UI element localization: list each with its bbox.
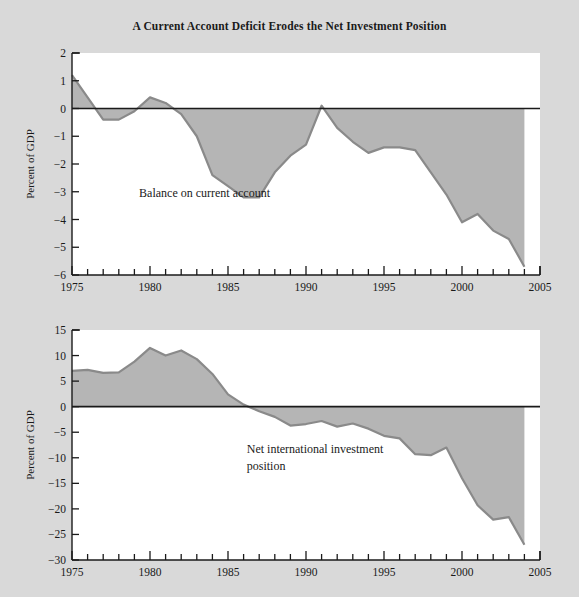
x-tick-label: 1980 bbox=[139, 566, 162, 578]
y-tick-label: −5 bbox=[54, 426, 66, 438]
y-tick-label: −30 bbox=[48, 554, 66, 566]
y-tick-label: 0 bbox=[60, 103, 66, 115]
x-tick-label: 1980 bbox=[139, 281, 162, 293]
chart-panel-investment-position: 151050−5−10−15−20−25−3019751980198519901… bbox=[0, 322, 579, 587]
y-tick-label: 10 bbox=[55, 350, 67, 362]
figure-page: A Current Account Deficit Erodes the Net… bbox=[0, 0, 579, 597]
y-tick-label: −5 bbox=[54, 241, 66, 253]
y-axis-title: Percent of GDP bbox=[24, 410, 36, 480]
y-tick-label: 2 bbox=[60, 47, 66, 59]
x-tick-label: 1985 bbox=[217, 566, 240, 578]
investment-position-chart: 151050−5−10−15−20−25−3019751980198519901… bbox=[0, 322, 579, 587]
y-tick-label: −15 bbox=[48, 477, 66, 489]
x-tick-label: 1975 bbox=[61, 281, 84, 293]
y-tick-label: −2 bbox=[54, 158, 66, 170]
x-tick-label: 2000 bbox=[451, 566, 474, 578]
x-tick-label: 2005 bbox=[529, 566, 552, 578]
series-annotation: position bbox=[247, 459, 286, 473]
y-tick-label: −1 bbox=[54, 130, 66, 142]
y-tick-label: −4 bbox=[54, 214, 66, 226]
series-annotation: Net international investment bbox=[247, 442, 384, 456]
y-tick-label: −10 bbox=[48, 452, 66, 464]
x-tick-label: 1975 bbox=[61, 566, 84, 578]
x-tick-label: 1995 bbox=[373, 566, 396, 578]
x-tick-label: 1990 bbox=[295, 566, 318, 578]
x-tick-label: 1995 bbox=[373, 281, 396, 293]
y-tick-label: −6 bbox=[54, 269, 66, 281]
y-tick-label: −3 bbox=[54, 186, 66, 198]
current-account-chart: 210−1−2−3−4−5−61975198019851990199520002… bbox=[0, 45, 579, 295]
y-tick-label: 1 bbox=[60, 75, 66, 87]
y-tick-label: 5 bbox=[60, 375, 66, 387]
series-annotation: Balance on current account bbox=[139, 186, 271, 200]
y-tick-label: −25 bbox=[48, 528, 66, 540]
x-tick-label: 2005 bbox=[529, 281, 552, 293]
x-tick-label: 2000 bbox=[451, 281, 474, 293]
x-tick-label: 1990 bbox=[295, 281, 318, 293]
y-tick-label: 15 bbox=[55, 324, 67, 336]
y-tick-label: 0 bbox=[60, 401, 66, 413]
chart-panel-current-account: 210−1−2−3−4−5−61975198019851990199520002… bbox=[0, 45, 579, 295]
figure-title: A Current Account Deficit Erodes the Net… bbox=[0, 20, 579, 32]
y-tick-label: −20 bbox=[48, 503, 66, 515]
x-tick-label: 1985 bbox=[217, 281, 240, 293]
y-axis-title: Percent of GDP bbox=[24, 129, 36, 199]
